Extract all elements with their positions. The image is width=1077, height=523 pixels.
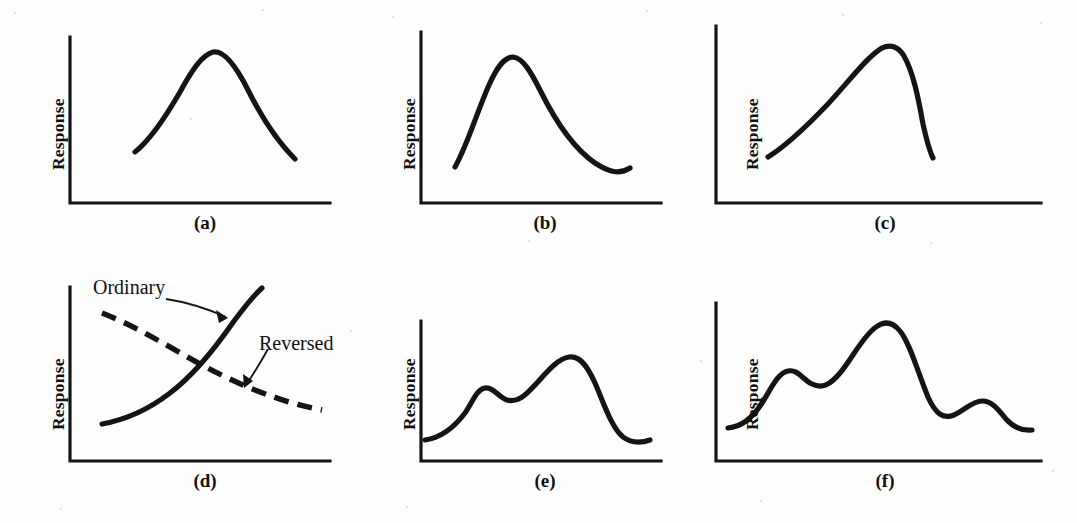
- curve-d-reversed: [102, 313, 322, 410]
- curve-a-response: [135, 52, 295, 159]
- curve-d-ordinary: [102, 288, 262, 424]
- curve-c-response: [768, 46, 933, 158]
- y-axis-label-a: Response: [48, 98, 69, 170]
- caption-a: (a): [175, 212, 235, 234]
- panel-f: Response (f): [710, 255, 1077, 523]
- panel-c: Response (c): [710, 0, 1077, 255]
- y-axis-label-e: Response: [399, 358, 420, 430]
- caption-c: (c): [855, 212, 915, 234]
- axis-lines-b: [421, 32, 661, 203]
- caption-f: (f): [855, 470, 915, 492]
- curve-b-response: [455, 57, 630, 172]
- series-label-reversed: Reversed: [259, 332, 333, 355]
- y-axis-label-f: Response: [742, 358, 763, 430]
- series-label-ordinary: Ordinary: [93, 276, 165, 299]
- ordinary-annotation-arrow: [166, 299, 228, 323]
- panel-e: Response (e): [355, 255, 710, 523]
- caption-e: (e): [515, 470, 575, 492]
- caption-d: (d): [175, 470, 235, 492]
- y-axis-label-c: Response: [742, 98, 763, 170]
- curve-f-response: [728, 323, 1032, 430]
- caption-b: (b): [515, 212, 575, 234]
- curve-e-response: [425, 357, 650, 442]
- panel-a: Response (a): [0, 0, 355, 255]
- panel-d: Response Ordinary Reversed (d): [0, 255, 355, 523]
- panel-b: Response (b): [355, 0, 710, 255]
- y-axis-label-b: Response: [399, 98, 420, 170]
- figure-response-curve-shapes: Response (a) Response (b) Response (c) R…: [0, 0, 1077, 523]
- y-axis-label-d: Response: [48, 358, 69, 430]
